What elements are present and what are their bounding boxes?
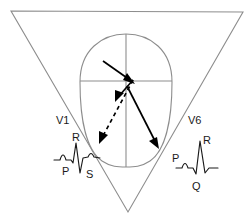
- lead-label-v6: V6: [188, 114, 201, 126]
- v6-ecg-trace-group: P R Q: [172, 134, 218, 192]
- v6-p-wave-label: P: [172, 152, 179, 164]
- ecg-vector-diagram: V1 V6 R P S P R Q: [0, 0, 252, 221]
- v6-r-wave-label: R: [203, 134, 211, 146]
- diagram-canvas: V1 V6 R P S P R Q: [0, 0, 252, 221]
- v6-ecg-trace: [176, 141, 218, 174]
- v6-q-wave-label: Q: [192, 180, 201, 192]
- v1-s-wave-label: S: [86, 168, 93, 180]
- v1-r-wave-label: R: [72, 131, 80, 143]
- lead-label-v1: V1: [56, 114, 69, 126]
- v1-p-wave-label: P: [62, 165, 69, 177]
